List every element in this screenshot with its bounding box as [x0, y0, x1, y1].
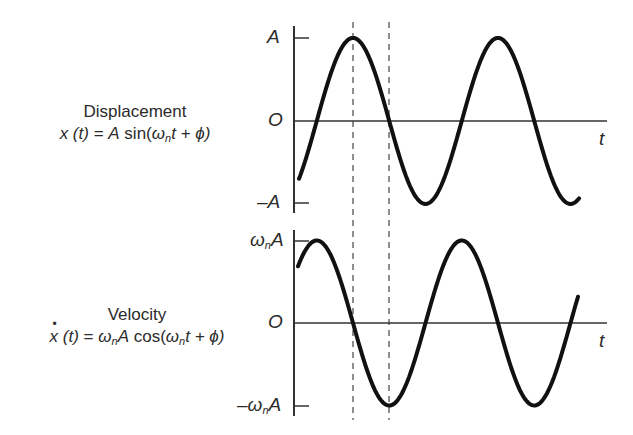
waveform-plot: [0, 0, 633, 435]
